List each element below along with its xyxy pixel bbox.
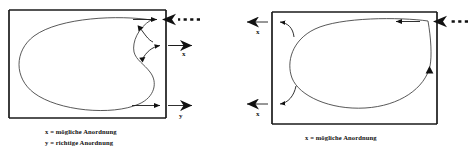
right-label-x-top: x [256,28,260,36]
left-panel: x y x = mögliche Anordnung y = richtige … [9,10,200,146]
right-label-x-bottom: x [256,110,260,118]
left-loop-path [19,18,154,111]
right-loop-up-arrowhead [426,66,434,73]
left-label-y: y [179,112,183,120]
right-caption-line-1: x = mögliche Anordnung [305,134,377,141]
right-loop-path [290,19,431,109]
technical-diagram: x y x = mögliche Anordnung y = richtige … [0,0,471,152]
left-dashed-inflow-arrowhead [162,14,176,25]
right-connector-top [280,22,294,37]
right-dashed-inflow-arrowhead [433,16,447,27]
left-caption-line-2: y = richtige Anordnung [45,139,114,146]
left-connector-upper [140,28,153,42]
right-panel-frame [272,12,437,124]
right-connector-bottom [280,86,296,104]
right-panel: x x x = mögliche Anordnung [247,12,468,141]
diagram-canvas: x y x = mögliche Anordnung y = richtige … [0,0,471,152]
left-caption-line-1: x = mögliche Anordnung [45,128,117,135]
left-label-x: x [182,50,186,58]
